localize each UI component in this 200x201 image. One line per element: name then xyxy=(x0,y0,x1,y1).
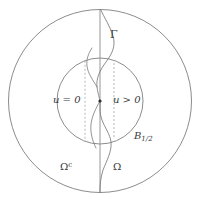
label-ball: B1/2 xyxy=(134,131,153,143)
free-boundary-curve-left-lower xyxy=(91,101,100,148)
figure-canvas: Γ u = 0 u > 0 B1/2 Ωc Ω xyxy=(0,0,200,201)
label-u-equals-zero: u = 0 xyxy=(53,95,81,105)
label-u-greater-than-zero: u > 0 xyxy=(113,95,141,105)
label-omega: Ω xyxy=(113,162,121,172)
label-omega-complement-superscript: c xyxy=(68,161,72,169)
diagram-svg xyxy=(0,0,200,201)
origin-point xyxy=(98,99,101,102)
free-boundary-curve-left-upper xyxy=(87,48,97,87)
label-omega-complement: Ωc xyxy=(60,162,72,172)
label-ball-subscript: 1/2 xyxy=(141,135,152,143)
label-gamma: Γ xyxy=(110,29,118,40)
